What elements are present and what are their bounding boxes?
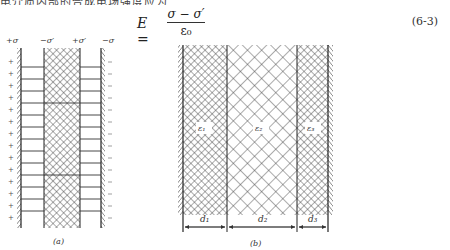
label-minus-sigma-prime: −σ′ — [40, 36, 54, 45]
svg-text:+: + — [8, 142, 14, 150]
thickness-d2: d₂ — [258, 214, 268, 224]
thickness-d1: d₁ — [200, 214, 209, 224]
svg-text:+: + — [8, 214, 14, 222]
caption-b: (b) — [250, 239, 261, 248]
svg-text:+: + — [8, 106, 14, 114]
thickness-d3: d₃ — [308, 214, 318, 224]
caption-a: (a) — [53, 237, 64, 246]
label-plus-sigma-prime: +σ′ — [72, 36, 86, 45]
svg-text:+: + — [8, 94, 14, 102]
figure-b: ε₁ ε₂ ε₃ d₁ d₂ d₃ (b) — [178, 45, 333, 248]
minus-signs — [108, 62, 112, 218]
svg-text:+: + — [8, 82, 14, 90]
figure-a: +σ −σ′ +σ′ −σ +++ +++ +++ — [6, 36, 115, 246]
label-plus-sigma: +σ — [6, 36, 19, 45]
epsilon-1: ε₁ — [198, 124, 206, 133]
svg-text:+: + — [8, 154, 14, 162]
svg-text:+: + — [8, 190, 14, 198]
epsilon-3: ε₃ — [307, 124, 315, 133]
svg-text:+: + — [8, 118, 14, 126]
dielectric-slab — [44, 48, 80, 228]
epsilon-2: ε₂ — [255, 124, 263, 133]
plus-signs: +++ +++ +++ +++ ++ — [8, 58, 14, 222]
svg-text:+: + — [8, 178, 14, 186]
svg-text:+: + — [8, 166, 14, 174]
label-minus-sigma: −σ — [102, 36, 115, 45]
figure-canvas: +σ −σ′ +σ′ −σ +++ +++ +++ — [0, 0, 450, 250]
svg-text:+: + — [8, 70, 14, 78]
svg-text:+: + — [8, 202, 14, 210]
svg-text:+: + — [8, 58, 14, 66]
svg-text:+: + — [8, 130, 14, 138]
